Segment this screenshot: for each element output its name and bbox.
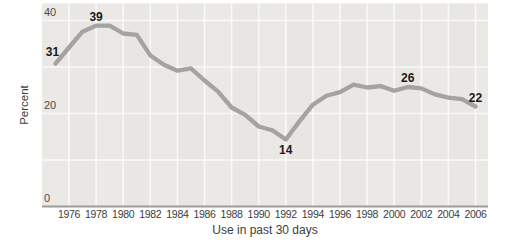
y-tick-label: 0: [44, 192, 50, 204]
x-tick-label: 2006: [464, 208, 487, 220]
y-axis-title: Percent: [18, 84, 30, 124]
data-point-label: 14: [279, 143, 293, 157]
x-axis-title: Use in past 30 days: [212, 223, 317, 237]
x-tick-label: 1990: [248, 208, 271, 220]
x-tick-label: 1988: [221, 208, 244, 220]
x-tick-label: 2002: [410, 208, 433, 220]
line-chart-svg: 40200 1976197819801982198419861988199019…: [0, 0, 511, 245]
x-tick-label: 1986: [193, 208, 216, 220]
x-tick-label: 1982: [139, 208, 162, 220]
y-tick-label: 40: [44, 6, 56, 18]
x-tick-label: 1994: [302, 208, 325, 220]
x-tick-label: 2004: [437, 208, 460, 220]
x-tick-label: 1976: [58, 208, 81, 220]
data-point-label: 39: [89, 10, 103, 24]
data-point-label: 26: [401, 71, 415, 85]
x-tick-label: 1992: [275, 208, 298, 220]
x-tick-label: 1996: [329, 208, 352, 220]
y-tick-label: 20: [44, 99, 56, 111]
data-point-label: 31: [46, 45, 60, 59]
x-tick-label: 1984: [166, 208, 189, 220]
x-tick-label: 1978: [85, 208, 108, 220]
x-tick-label: 2000: [383, 208, 406, 220]
x-tick-label: 1998: [356, 208, 379, 220]
x-tick-labels-group: 1976197819801982198419861988199019921994…: [58, 208, 487, 220]
x-tick-label: 1980: [112, 208, 135, 220]
data-point-label: 22: [469, 91, 483, 105]
line-chart-figure: 40200 1976197819801982198419861988199019…: [0, 0, 511, 245]
